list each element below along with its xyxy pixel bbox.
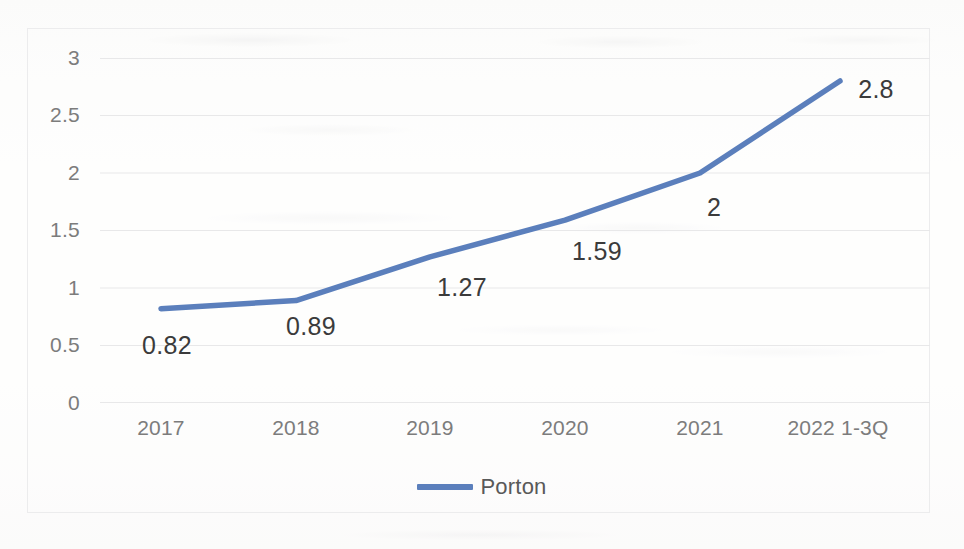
data-label-2017: 0.82 xyxy=(142,331,192,360)
y-axis-tick-1: 1 xyxy=(20,276,80,300)
data-label-2020: 1.59 xyxy=(572,237,622,266)
legend-label-porton: Porton xyxy=(480,474,546,500)
x-axis-label-2022-1-3q: 2022 1-3Q xyxy=(787,416,888,440)
line-chart-svg xyxy=(100,58,930,403)
y-axis-tick-2_5: 2.5 xyxy=(20,103,80,127)
scanned-figure-page: 3 2.5 2 1.5 1 0.5 0 2017 2018 2019 2020 … xyxy=(0,0,964,549)
data-label-2021: 2 xyxy=(707,193,721,222)
data-label-2019: 1.27 xyxy=(437,273,487,302)
x-axis-label-2020: 2020 xyxy=(541,416,589,440)
plot-area xyxy=(100,58,930,403)
x-axis-label-2021: 2021 xyxy=(676,416,724,440)
data-label-2022: 2.8 xyxy=(858,75,894,104)
data-label-2018: 0.89 xyxy=(286,312,336,341)
y-axis-tick-2: 2 xyxy=(20,161,80,185)
y-axis-tick-0: 0 xyxy=(20,391,80,415)
y-axis-tick-3: 3 xyxy=(20,46,80,70)
chart-legend: Porton xyxy=(0,474,964,500)
x-axis-label-2017: 2017 xyxy=(137,416,185,440)
legend-line-swatch-porton xyxy=(417,484,473,490)
x-axis-label-2018: 2018 xyxy=(272,416,320,440)
gridlines xyxy=(100,59,930,403)
y-axis-tick-1_5: 1.5 xyxy=(20,218,80,242)
x-axis-label-2019: 2019 xyxy=(406,416,454,440)
y-axis-tick-0_5: 0.5 xyxy=(20,333,80,357)
